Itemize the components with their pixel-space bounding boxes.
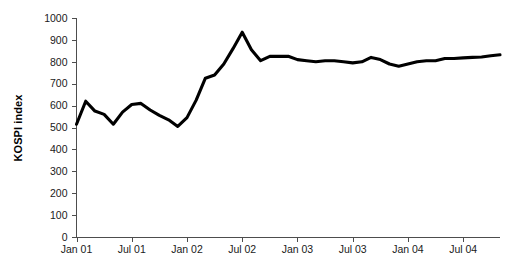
y-tick-label: 0 bbox=[62, 231, 68, 243]
x-tick-label: Jul 02 bbox=[228, 243, 256, 255]
y-tick-label: 600 bbox=[50, 99, 68, 111]
y-axis-tick-labels: 01002003004005006007008009001000 bbox=[44, 12, 68, 243]
y-tick-label: 1000 bbox=[44, 12, 68, 24]
kospi-series-line bbox=[77, 32, 501, 126]
x-axis-tick-labels: Jan 01Jul 01Jan 02Jul 02Jan 03Jul 03Jan … bbox=[61, 243, 478, 255]
y-axis-tick-marks bbox=[72, 19, 77, 238]
x-tick-label: Jan 03 bbox=[282, 243, 314, 255]
x-tick-label: Jul 03 bbox=[339, 243, 367, 255]
y-tick-label: 400 bbox=[50, 143, 68, 155]
y-axis-title: KOSPI index bbox=[12, 94, 24, 162]
x-tick-label: Jul 04 bbox=[449, 243, 477, 255]
y-tick-label: 500 bbox=[50, 121, 68, 133]
x-tick-label: Jan 02 bbox=[171, 243, 203, 255]
y-tick-label: 700 bbox=[50, 77, 68, 89]
x-tick-label: Jan 04 bbox=[392, 243, 424, 255]
chart-figure: 01002003004005006007008009001000 Jan 01J… bbox=[0, 0, 511, 272]
x-tick-label: Jan 01 bbox=[61, 243, 93, 255]
kospi-line-chart: 01002003004005006007008009001000 Jan 01J… bbox=[0, 0, 511, 272]
y-tick-label: 200 bbox=[50, 187, 68, 199]
y-tick-label: 800 bbox=[50, 56, 68, 68]
x-tick-label: Jul 01 bbox=[118, 243, 146, 255]
y-tick-label: 100 bbox=[50, 209, 68, 221]
y-tick-label: 300 bbox=[50, 165, 68, 177]
y-tick-label: 900 bbox=[50, 34, 68, 46]
